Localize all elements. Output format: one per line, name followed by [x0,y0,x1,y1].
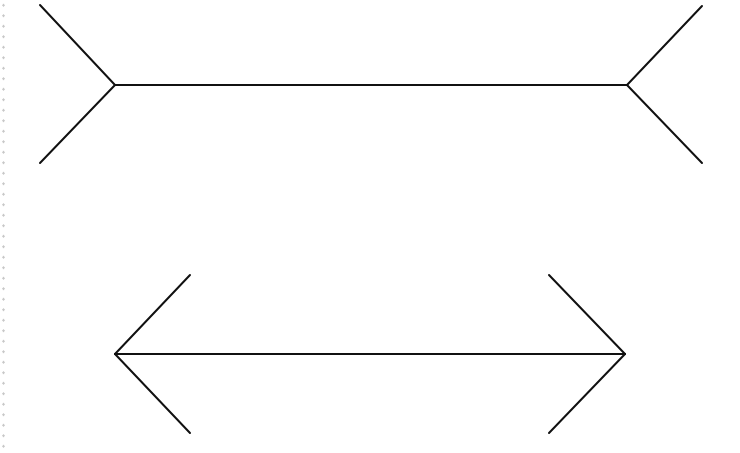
figure-top-fins-outward [40,5,702,163]
top-right-lower-fin [627,85,702,163]
figure-bottom-arrowheads-inward [115,275,625,433]
top-left-upper-fin [40,5,115,85]
muller-lyer-diagram [0,0,740,453]
bottom-left-lower-fin [115,354,190,433]
top-left-lower-fin [40,85,115,163]
top-right-upper-fin [627,6,702,85]
bottom-right-lower-fin [549,354,625,433]
bottom-left-upper-fin [115,275,190,354]
bottom-right-upper-fin [549,275,625,354]
